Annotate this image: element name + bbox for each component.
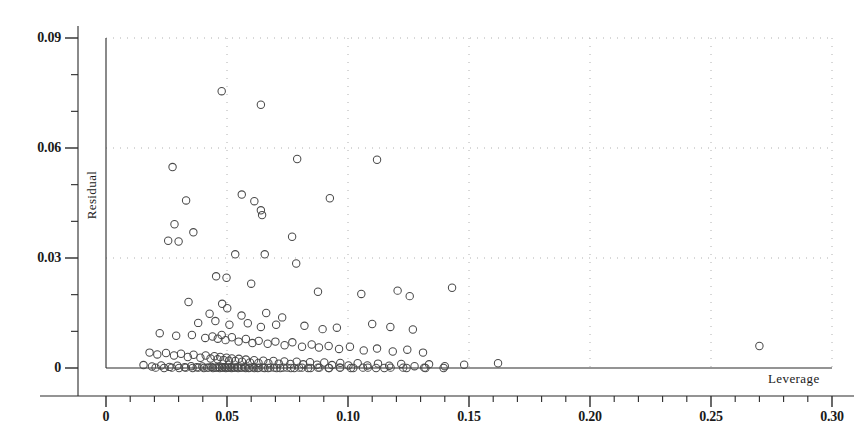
- x-tick-label: 0.10: [336, 409, 360, 425]
- x-tick-label: 0.30: [820, 409, 844, 425]
- scatter-plot-figure: 00.030.060.09 00.050.100.150.200.250.30 …: [0, 0, 861, 436]
- plot-canvas: [0, 0, 861, 436]
- data-points: [140, 87, 763, 371]
- y-axis-title: Residual: [84, 171, 100, 220]
- x-axis-title: Leverage: [768, 371, 820, 387]
- y-tick-label: 0.09: [37, 30, 61, 46]
- y-tick-label: 0: [54, 360, 61, 376]
- gridlines: [106, 38, 832, 368]
- x-tick-label: 0.15: [457, 409, 481, 425]
- x-tick-label: 0.25: [699, 409, 723, 425]
- x-tick-label: 0.20: [578, 409, 602, 425]
- y-tick-label: 0.06: [37, 140, 61, 156]
- x-tick-label: 0.05: [215, 409, 239, 425]
- y-tick-label: 0.03: [37, 250, 61, 266]
- x-tick-label: 0: [103, 409, 110, 425]
- axis-spines-and-ticks: [40, 26, 854, 407]
